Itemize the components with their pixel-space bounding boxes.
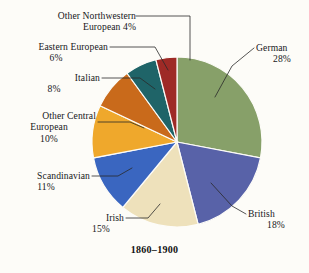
pie-label-scandinavian: Scandinavian 11% xyxy=(2,170,90,193)
pie-label-eastern-european-value: 6% xyxy=(4,52,108,63)
pie-label-german-line1: German xyxy=(256,42,308,53)
pie-label-eastern-european-line1: Eastern European xyxy=(4,41,108,52)
pie-label-german: German 28% xyxy=(256,42,308,65)
pie-label-other-central-european-value: 10% xyxy=(2,133,96,144)
pie-label-irish-line1: Irish xyxy=(78,212,124,223)
pie-label-british-line1: British xyxy=(248,208,304,219)
pie-label-italian-value: 8% xyxy=(8,83,100,94)
pie-label-irish: Irish 15% xyxy=(78,212,124,235)
pie-label-british-value: 18% xyxy=(248,219,304,230)
pie-label-other-central-european-line1: Other Central xyxy=(2,110,96,121)
leader-line-other-northwestern-european xyxy=(136,16,190,60)
pie-label-other-northwestern-european-line2: European 4% xyxy=(14,21,136,32)
pie-label-irish-value: 15% xyxy=(78,223,124,234)
pie-label-italian: Italian 8% xyxy=(8,72,100,95)
pie-label-scandinavian-line1: Scandinavian xyxy=(2,170,90,181)
pie-label-german-value: 28% xyxy=(256,53,308,64)
pie-label-italian-line1: Italian xyxy=(8,72,100,83)
pie-label-eastern-european: Eastern European 6% xyxy=(4,41,108,64)
pie-label-scandinavian-value: 11% xyxy=(2,181,90,192)
pie-slices xyxy=(92,57,262,227)
pie-label-other-northwestern-european-line1: Other Northwestern xyxy=(14,10,136,21)
pie-label-other-central-european: Other Central European 10% xyxy=(2,110,96,144)
pie-label-other-central-european-line2: European xyxy=(2,121,96,132)
pie-label-british: British 18% xyxy=(248,208,304,231)
pie-slice-german xyxy=(177,57,262,158)
pie-chart: Other Northwestern European 4% Eastern E… xyxy=(0,0,309,273)
pie-label-other-northwestern-european: Other Northwestern European 4% xyxy=(14,10,136,33)
chart-caption: 1860–1900 xyxy=(0,244,309,255)
